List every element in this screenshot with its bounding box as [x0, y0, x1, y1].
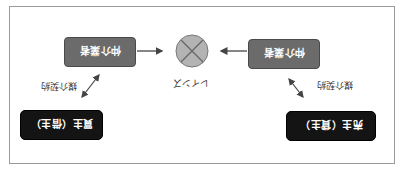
buyer-broker-box: 仲介業者 — [64, 37, 136, 67]
buyer-broker-label: 仲介業者 — [79, 45, 121, 60]
reins-label: レインズ — [173, 77, 209, 90]
diagram-stage: 仲介業者 仲介業者 レインズ 売主（貸主） 買主（借主） 媒介契約 媒介契約 — [0, 0, 402, 169]
contract-arrow-seller — [289, 79, 303, 97]
reins-hub-icon — [176, 35, 208, 67]
contract-arrow-buyer — [82, 75, 99, 97]
buyer-contract-label: 媒介契約 — [41, 80, 77, 93]
seller-contract-label: 媒介契約 — [317, 79, 353, 92]
seller-party-box: 売主（貸主） — [286, 111, 376, 141]
buyer-party-label: 買主（借主） — [30, 118, 93, 133]
seller-broker-box: 仲介業者 — [248, 39, 320, 69]
seller-party-label: 売主（貸主） — [300, 119, 363, 134]
seller-broker-label: 仲介業者 — [263, 47, 305, 62]
buyer-party-box: 買主（借主） — [20, 110, 103, 140]
